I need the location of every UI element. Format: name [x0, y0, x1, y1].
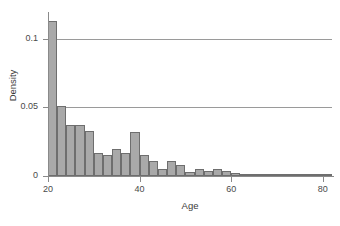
- y-tick-mark: [43, 39, 48, 40]
- y-axis-title: Density: [7, 56, 18, 116]
- y-tick-label: 0.1: [25, 34, 38, 43]
- plot-area: [48, 14, 332, 176]
- histogram-bar: [195, 169, 204, 176]
- histogram-bar: [213, 169, 222, 176]
- histogram-bar: [112, 149, 121, 176]
- y-tick-label: 0: [33, 171, 38, 180]
- histogram-bar: [167, 161, 176, 176]
- x-tick-label: 20: [33, 184, 63, 195]
- x-tick-label: 60: [216, 184, 246, 195]
- histogram-bar: [66, 125, 75, 176]
- y-axis-line: [48, 12, 49, 178]
- y-tick-mark: [43, 107, 48, 108]
- x-tick-mark: [231, 177, 232, 182]
- histogram-bars: [48, 14, 332, 176]
- histogram-bar: [130, 132, 139, 176]
- histogram-bar: [85, 131, 94, 176]
- x-tick-label: 40: [125, 184, 155, 195]
- histogram-bar: [121, 153, 130, 176]
- histogram-bar: [140, 155, 149, 176]
- y-tick-label: 0.05: [20, 102, 38, 111]
- histogram-bar: [94, 153, 103, 176]
- x-tick-mark: [48, 177, 49, 182]
- histogram-bar: [103, 155, 112, 176]
- histogram-bar: [75, 125, 84, 176]
- histogram-bar: [158, 169, 167, 176]
- histogram-figure: 00.050.1 20406080 Age Density: [0, 0, 340, 226]
- histogram-bar: [48, 21, 57, 176]
- histogram-bar: [57, 106, 66, 176]
- x-tick-mark: [140, 177, 141, 182]
- x-tick-mark: [323, 177, 324, 182]
- histogram-bar: [176, 165, 185, 176]
- x-tick-label: 80: [308, 184, 338, 195]
- x-axis-line: [46, 176, 334, 177]
- x-axis-title: Age: [48, 200, 332, 211]
- histogram-bar: [149, 161, 158, 176]
